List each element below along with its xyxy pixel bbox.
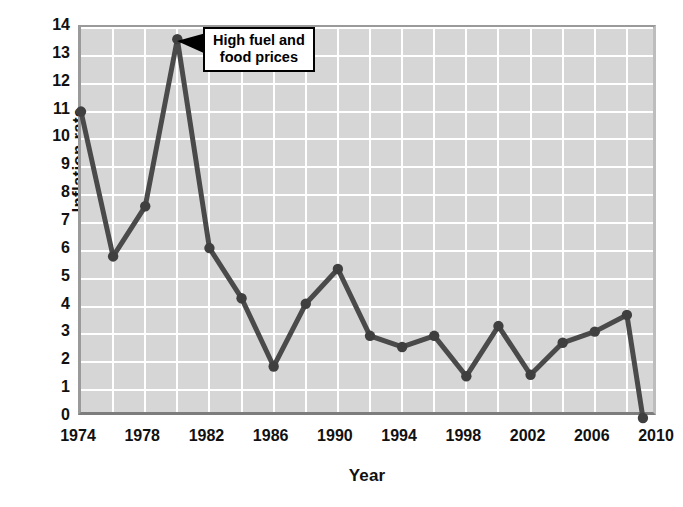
y-tick-label: 7 (28, 212, 70, 228)
x-tick-label: 1978 (112, 428, 172, 444)
data-point-marker (590, 326, 600, 336)
x-tick-label: 2006 (562, 428, 622, 444)
inflation-markers (76, 34, 648, 423)
data-point-marker (333, 264, 343, 274)
plot-area (78, 25, 656, 415)
data-point-marker (429, 331, 439, 341)
data-point-marker (204, 243, 214, 253)
data-point-marker (493, 321, 503, 331)
annotation-callout: High fuel and food prices (203, 27, 315, 72)
y-tick-label: 4 (28, 296, 70, 312)
y-tick-label: 10 (28, 128, 70, 144)
data-point-marker (622, 310, 632, 320)
chart-figure: Inflation rate Year 01234567891011121314… (0, 0, 683, 507)
data-point-marker (236, 293, 246, 303)
data-point-marker (557, 338, 567, 348)
y-tick-label: 6 (28, 240, 70, 256)
y-tick-label: 12 (28, 73, 70, 89)
x-tick-label: 1994 (369, 428, 429, 444)
x-tick-label: 2010 (626, 428, 683, 444)
y-tick-label: 5 (28, 268, 70, 284)
y-tick-label: 11 (28, 101, 70, 117)
x-tick-label: 1974 (48, 428, 108, 444)
x-tick-label: 1986 (241, 428, 301, 444)
x-axis-title: Year (78, 466, 656, 486)
data-point-marker (268, 361, 278, 371)
data-point-marker (108, 251, 118, 261)
x-tick-label: 1998 (433, 428, 493, 444)
data-point-marker (461, 371, 471, 381)
data-line-series (81, 28, 659, 418)
data-point-marker (301, 299, 311, 309)
x-tick-label: 1982 (176, 428, 236, 444)
annotation-pointer-icon (177, 33, 206, 54)
x-tick-label: 2002 (498, 428, 558, 444)
inflation-line (81, 39, 643, 418)
y-tick-label: 14 (28, 17, 70, 33)
data-point-marker (365, 331, 375, 341)
data-point-marker (397, 342, 407, 352)
data-point-marker (140, 201, 150, 211)
data-point-marker (76, 106, 86, 116)
y-tick-label: 3 (28, 323, 70, 339)
x-tick-label: 1990 (305, 428, 365, 444)
data-point-marker (525, 370, 535, 380)
y-tick-label: 2 (28, 351, 70, 367)
y-tick-label: 1 (28, 379, 70, 395)
y-tick-label: 13 (28, 45, 70, 61)
data-point-marker (638, 413, 648, 423)
y-tick-label: 8 (28, 184, 70, 200)
y-tick-label: 9 (28, 156, 70, 172)
y-tick-label: 0 (28, 407, 70, 423)
